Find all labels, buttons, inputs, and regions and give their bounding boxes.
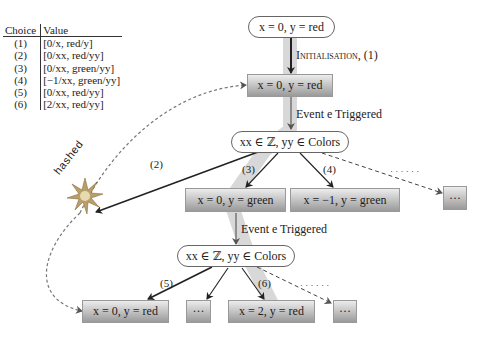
table-row: (5)[0/xx, red/yy] bbox=[3, 86, 122, 98]
node-choice-2: xx ∈ ℤ, yy ∈ Colors bbox=[177, 245, 295, 267]
edge-label-choice-3: (3) bbox=[242, 163, 255, 175]
table-row: (3)[0/xx, green/yy] bbox=[3, 62, 122, 74]
table-row: (4)[−1/xx, green/yy] bbox=[3, 74, 122, 86]
edge-label-choice-6: (6) bbox=[258, 277, 271, 289]
header-value: Value bbox=[41, 24, 123, 37]
node-ellipsis-3: ··· bbox=[333, 300, 357, 323]
state-space-diagram: Choice Value (1)[0/x, red/y] (2)[0/xx, r… bbox=[0, 0, 488, 343]
header-choice: Choice bbox=[3, 24, 41, 37]
collision-starburst-icon bbox=[67, 178, 103, 214]
edge-label-choice-2: (2) bbox=[150, 158, 163, 170]
edge-label-event-1: Event e Triggered bbox=[296, 107, 382, 122]
continuation-dots-2: · · · · · · bbox=[300, 280, 329, 290]
table-row: (2)[0/xx, red/yy] bbox=[3, 49, 122, 61]
node-ellipsis-1: ··· bbox=[443, 186, 467, 210]
table-row: (1)[0/x, red/y] bbox=[3, 37, 122, 50]
node-red-0: x = 0, y = red bbox=[82, 300, 169, 323]
table-row: (6)[2/xx, red/yy] bbox=[3, 98, 122, 110]
node-green-0: x = 0, y = green bbox=[185, 188, 286, 212]
edge-label-choice-4: (4) bbox=[323, 163, 336, 175]
continuation-dots-1: · · · · · · bbox=[390, 166, 419, 176]
edge-label-event-2: Event e Triggered bbox=[241, 222, 327, 237]
edge-label-init: Initialisation, (1) bbox=[296, 48, 378, 63]
node-init-state: x = 0, y = red bbox=[247, 74, 333, 97]
node-choice-1: xx ∈ ℤ, yy ∈ Colors bbox=[231, 131, 349, 153]
choice-table: Choice Value (1)[0/x, red/y] (2)[0/xx, r… bbox=[3, 24, 122, 110]
edge-label-choice-5: (5) bbox=[160, 277, 173, 289]
node-root: x = 0, y = red bbox=[248, 16, 335, 38]
hashed-link-down bbox=[46, 213, 82, 311]
node-green-minus1: x = −1, y = green bbox=[290, 188, 400, 212]
node-ellipsis-2: ··· bbox=[186, 300, 211, 323]
node-red-2: x = 2, y = red bbox=[228, 300, 315, 323]
